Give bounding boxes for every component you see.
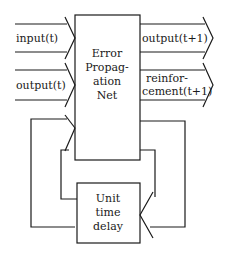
input-t-label: input(t) xyxy=(16,32,58,45)
output-t-label: output(t) xyxy=(16,79,66,92)
main-block-line3: ation xyxy=(93,75,121,88)
delay-block-line1: Unit xyxy=(96,192,121,205)
reinforcement-label-line1: reinfor- xyxy=(146,72,188,85)
diagram-canvas: input(t) output(t) output(t+1) reinfor- … xyxy=(0,0,226,253)
main-block-line4: Net xyxy=(97,89,118,102)
delay-input-chevron xyxy=(140,192,153,238)
delay-block-line3: delay xyxy=(93,220,124,233)
main-block-line1: Error xyxy=(92,47,123,60)
reinforcement-label-line2: cement(t+1) xyxy=(142,85,212,98)
main-block-line2: Propag- xyxy=(85,61,129,74)
output-t-plus-1-label: output(t+1) xyxy=(142,32,208,45)
delay-block-line2: time xyxy=(96,206,121,219)
